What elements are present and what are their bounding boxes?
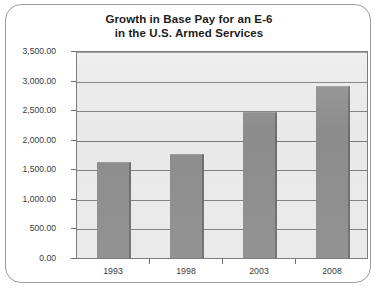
x-axis-tick-mark xyxy=(222,259,223,264)
x-axis-tick-label: 2008 xyxy=(297,266,367,277)
y-axis-tick-label: 3,500.00 xyxy=(0,47,56,56)
y-axis-tick-label: 1,500.00 xyxy=(0,165,56,174)
x-axis-tick-label: 2003 xyxy=(224,266,294,277)
chart-title: Growth in Base Pay for an E-6 in the U.S… xyxy=(6,12,372,40)
chart-frame: Growth in Base Pay for an E-6 in the U.S… xyxy=(5,4,371,283)
chart-title-line-1: Growth in Base Pay for an E-6 xyxy=(6,12,372,26)
plot-area xyxy=(76,51,368,259)
y-axis-tick-label: 3,000.00 xyxy=(0,77,56,86)
y-axis-tick-label: 2,000.00 xyxy=(0,136,56,145)
x-axis-tick-mark xyxy=(295,259,296,264)
gridline xyxy=(77,52,367,53)
y-axis-tick-label: 500.00 xyxy=(0,224,56,233)
x-axis-tick-label: 1993 xyxy=(78,266,148,277)
y-axis-tick-label: 2,500.00 xyxy=(0,106,56,115)
y-axis-tick-label: 0.00 xyxy=(0,254,56,263)
x-axis-tick-mark xyxy=(149,259,150,264)
bar xyxy=(97,162,131,258)
bar xyxy=(316,86,350,258)
bar xyxy=(170,154,204,258)
chart-title-line-2: in the U.S. Armed Services xyxy=(6,26,372,40)
y-axis-tick-label: 1,000.00 xyxy=(0,195,56,204)
gridline xyxy=(77,82,367,83)
x-axis-tick-label: 1998 xyxy=(151,266,221,277)
bar xyxy=(243,112,277,258)
